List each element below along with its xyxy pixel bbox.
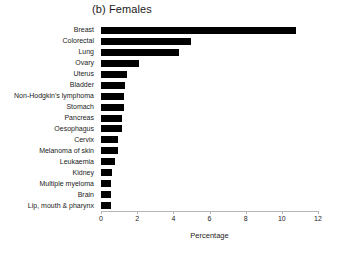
- category-label: Non-Hodgkin's lymphoma: [14, 92, 97, 100]
- category-label: Bladder: [70, 81, 97, 89]
- x-tick-label: 8: [244, 215, 248, 222]
- bar-3: [101, 49, 318, 56]
- plot-area: [101, 25, 318, 211]
- x-tick-label: 2: [135, 215, 139, 222]
- category-label-row: Brain: [0, 191, 97, 198]
- bar-8: [101, 104, 318, 111]
- bar-13: [101, 158, 318, 165]
- x-tick: [246, 211, 247, 214]
- bar-14: [101, 169, 318, 176]
- category-label: Melanoma of skin: [39, 147, 97, 155]
- chart-title: (b) Females: [92, 3, 152, 15]
- bar-2: [101, 38, 318, 45]
- bar-4: [101, 60, 318, 67]
- bar-fill: [101, 60, 139, 67]
- bar-6: [101, 82, 318, 89]
- bar-fill: [101, 82, 125, 89]
- category-label-row: Melanoma of skin: [0, 147, 97, 154]
- category-label: Brain: [78, 191, 97, 199]
- x-tick: [173, 211, 174, 214]
- category-label: Ovary: [75, 59, 97, 67]
- bar-fill: [101, 202, 111, 209]
- category-label: Stomach: [66, 103, 97, 111]
- category-label-row: Lung: [0, 49, 97, 56]
- category-label: Oesophagus: [54, 125, 97, 133]
- category-label: Pancreas: [64, 114, 97, 122]
- x-tick: [318, 211, 319, 214]
- x-tick-label: 0: [99, 215, 103, 222]
- x-tick-label: 4: [171, 215, 175, 222]
- category-label: Lung: [78, 48, 97, 56]
- bar-fill: [101, 125, 122, 132]
- bar-fill: [101, 38, 191, 45]
- bar-10: [101, 125, 318, 132]
- bar-fill: [101, 93, 124, 100]
- category-label-row: Multiple myeloma: [0, 180, 97, 187]
- category-label-row: Pancreas: [0, 115, 97, 122]
- category-label-row: Breast: [0, 27, 97, 34]
- category-label-row: Bladder: [0, 82, 97, 89]
- bar-7: [101, 93, 318, 100]
- bar-fill: [101, 27, 296, 34]
- category-label-row: Stomach: [0, 104, 97, 111]
- bar-9: [101, 115, 318, 122]
- category-label: Kidney: [73, 169, 97, 177]
- bar-fill: [101, 115, 122, 122]
- x-tick: [210, 211, 211, 214]
- category-label: Cervix: [74, 136, 97, 144]
- category-label-row: Uterus: [0, 71, 97, 78]
- category-axis-labels: BreastColorectalLungOvaryUterusBladderNo…: [0, 25, 97, 211]
- bar-5: [101, 71, 318, 78]
- category-label: Colorectal: [62, 37, 97, 45]
- bar-chart: (b) Females BreastColorectalLungOvaryUte…: [0, 0, 340, 255]
- x-axis-title: Percentage: [101, 231, 318, 240]
- category-label: Breast: [74, 26, 97, 34]
- bar-15: [101, 180, 318, 187]
- bar-17: [101, 202, 318, 209]
- category-label-row: Lip, mouth & pharynx: [0, 202, 97, 209]
- bar-fill: [101, 71, 127, 78]
- x-tick: [101, 211, 102, 214]
- x-tick-label: 10: [278, 215, 286, 222]
- category-label: Uterus: [73, 70, 97, 78]
- bar-12: [101, 147, 318, 154]
- category-label-row: Colorectal: [0, 38, 97, 45]
- category-label-row: Ovary: [0, 60, 97, 67]
- category-label-row: Non-Hodgkin's lymphoma: [0, 93, 97, 100]
- category-label-row: Oesophagus: [0, 125, 97, 132]
- bar-fill: [101, 104, 124, 111]
- bar-11: [101, 136, 318, 143]
- bar-fill: [101, 136, 118, 143]
- category-label: Multiple myeloma: [40, 180, 97, 188]
- category-label: Lip, mouth & pharynx: [28, 202, 97, 210]
- bar-fill: [101, 147, 118, 154]
- bar-fill: [101, 169, 112, 176]
- x-tick-label: 12: [314, 215, 322, 222]
- category-label: Leukaemia: [60, 158, 97, 166]
- bar-fill: [101, 49, 179, 56]
- category-label-row: Cervix: [0, 136, 97, 143]
- x-tick: [282, 211, 283, 214]
- bar-fill: [101, 180, 111, 187]
- category-label-row: Leukaemia: [0, 158, 97, 165]
- x-tick: [137, 211, 138, 214]
- bar-fill: [101, 191, 111, 198]
- bar-1: [101, 27, 318, 34]
- bar-fill: [101, 158, 115, 165]
- category-label-row: Kidney: [0, 169, 97, 176]
- x-tick-label: 6: [208, 215, 212, 222]
- bar-16: [101, 191, 318, 198]
